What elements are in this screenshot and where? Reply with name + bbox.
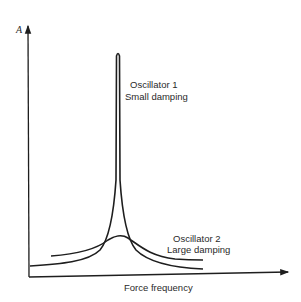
oscillator-1-label: Oscillator 1 — [130, 79, 178, 90]
oscillator-1-damping-label: Small damping — [125, 91, 188, 102]
y-axis-label: A — [15, 24, 23, 35]
x-axis — [29, 272, 288, 277]
x-axis-label: Force frequency — [124, 282, 193, 293]
oscillator-2-damping-label: Large damping — [167, 244, 230, 255]
oscillator-2-label: Oscillator 2 — [173, 233, 221, 244]
resonance-diagram: A Oscillator 1 Small damping Oscillator … — [0, 0, 301, 302]
y-axis — [28, 26, 29, 277]
